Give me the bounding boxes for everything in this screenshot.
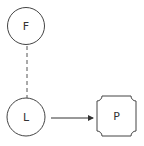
node-p-label: P [113, 110, 120, 123]
diagram-canvas: F L P [0, 0, 144, 146]
node-l[interactable]: L [7, 98, 45, 136]
node-p[interactable]: P [97, 96, 136, 136]
node-l-label: L [23, 111, 30, 124]
node-f[interactable]: F [8, 8, 45, 45]
node-f-label: F [23, 20, 29, 33]
